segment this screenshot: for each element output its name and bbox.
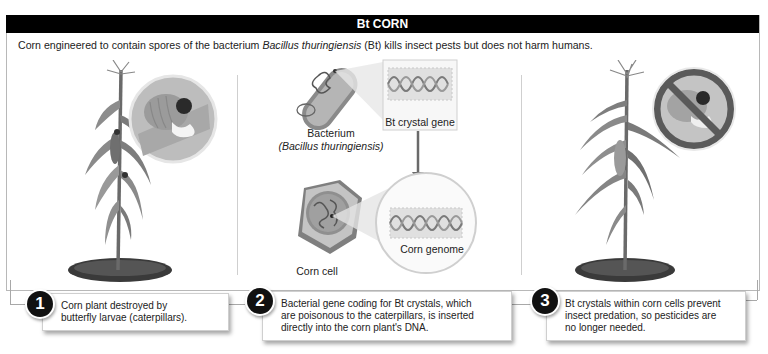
species-name: (Bacillus thuringiensis): [278, 140, 383, 152]
step-3-text-line-1: Bt crystals within corn cells prevent: [565, 298, 735, 310]
step-1-callout: Corn plant destroyed by butterfly larvae…: [42, 293, 229, 331]
panel-divider-2: [521, 75, 522, 275]
bacterium-label: Bacterium: [296, 127, 366, 139]
subtitle-text: Corn engineered to contain spores of the…: [18, 39, 262, 51]
connector-right: [757, 280, 758, 300]
corn-cell-label: Corn cell: [287, 265, 347, 277]
step-3-text-line-3: no longer needed.: [565, 322, 735, 334]
step-2-text-line-1: Bacterial gene coding for Bt crystals, w…: [281, 298, 501, 310]
step-3-badge: 3: [532, 288, 558, 314]
step-1-badge: 1: [27, 291, 53, 317]
step-2-badge: 2: [247, 288, 273, 314]
corn-genome-label: Corn genome: [395, 243, 469, 255]
subtitle-species: Bacillus thuringiensis: [262, 39, 361, 51]
bacterium-species-label: (Bacillus thuringiensis): [271, 140, 391, 152]
caterpillar-inset-icon: [128, 74, 218, 164]
subtitle-text-end: (Bt) kills insect pests but does not har…: [361, 39, 592, 51]
no-caterpillar-prohibition-icon: [651, 66, 737, 152]
step-2-text-line-3: directly into the corn plant's DNA.: [281, 322, 501, 334]
step-1-text-line-1: Corn plant destroyed by: [61, 300, 218, 312]
panel-divider-1: [237, 75, 238, 275]
figure-subtitle: Corn engineered to contain spores of the…: [18, 39, 593, 51]
step-3-callout: Bt crystals within corn cells prevent in…: [546, 291, 746, 341]
figure-title: Bt CORN: [6, 15, 759, 33]
step-1-text-line-2: butterfly larvae (caterpillars).: [61, 312, 218, 324]
bt-crystal-gene-label: Bt crystal gene: [383, 116, 457, 128]
step-2-text-line-2: are poisonous to the caterpillars, is in…: [281, 310, 501, 322]
step-3-text-line-2: insect predation, so pesticides are: [565, 310, 735, 322]
connector-left: [10, 280, 11, 304]
step-2-callout: Bacterial gene coding for Bt crystals, w…: [262, 291, 512, 341]
